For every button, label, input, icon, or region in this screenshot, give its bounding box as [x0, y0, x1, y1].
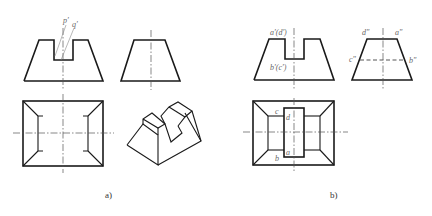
top-view-edge	[253, 150, 268, 165]
panel-a-front-view: p' q'	[24, 16, 103, 89]
label-a: a	[286, 148, 290, 157]
panel-a-isometric-view	[127, 102, 201, 165]
top-view-edge	[23, 151, 38, 166]
iso-notch	[165, 124, 182, 142]
label-d-double-prime: d"	[362, 28, 370, 37]
top-view-edge	[88, 151, 103, 166]
panel-a: p' q'	[13, 16, 201, 200]
iso-right-block-top	[161, 102, 192, 126]
panel-b-front-view: a'(d') b'(c')	[254, 28, 334, 90]
iso-right-slope	[192, 111, 201, 141]
top-view-edge	[320, 150, 334, 165]
caption-a: a)	[105, 190, 112, 200]
label-b-prime-c-prime: b'(c')	[270, 63, 287, 72]
label-b-double-prime: b"	[409, 56, 417, 65]
top-view-edge	[88, 101, 103, 116]
panel-b: a'(d') b'(c') d" a" c" b" c d a	[243, 28, 417, 200]
projection-figure: p' q'	[0, 0, 432, 216]
label-q: q'	[72, 20, 78, 29]
panel-b-top-view: c d a b	[243, 98, 348, 172]
panel-a-side-view	[121, 30, 180, 90]
label-a-prime-d-prime: a'(d')	[270, 28, 287, 37]
caption-b: b)	[330, 190, 338, 200]
label-c: c	[275, 107, 279, 116]
top-view-edge	[253, 101, 268, 116]
top-view-left-bracket	[38, 116, 43, 151]
iso-right-block-ridge	[169, 107, 185, 117]
label-c-double-prime: c"	[349, 55, 357, 64]
label-p: p'	[62, 16, 69, 25]
panel-b-side-view: d" a" c" b"	[349, 28, 417, 90]
label-a-double-prime: a"	[395, 28, 403, 37]
top-view-edge	[23, 101, 38, 116]
iso-left-face	[127, 124, 158, 165]
top-view-edge	[320, 101, 334, 116]
label-b: b	[275, 154, 279, 163]
top-view-right-bracket	[83, 116, 88, 151]
front-view-outline	[24, 40, 103, 81]
panel-a-top-view	[13, 94, 114, 173]
side-view-outline	[121, 40, 180, 81]
